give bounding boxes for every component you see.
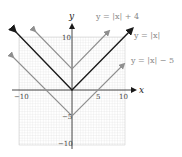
tick-y-neg5: −5 [62,113,72,121]
y-axis-arrow-icon [69,23,75,29]
abs-value-graph: −10 5 10 10 −5 −10 x y y = |x| + 4 y = |… [0,0,182,157]
tick-y-10: 10 [62,34,71,42]
y-axis-label: y [68,11,75,21]
label-abs: y = |x| [133,31,160,40]
label-abs-minus-5: y = |x| − 5 [130,56,174,65]
label-abs-plus-4: y = |x| + 4 [95,12,139,21]
tick-y-neg10: −10 [58,140,73,148]
x-axis-arrow-icon [131,87,137,93]
tick-x-10: 10 [119,93,128,101]
tick-x-neg10: −10 [14,93,29,101]
x-axis-label: x [139,85,144,95]
tick-x-5: 5 [96,93,100,101]
